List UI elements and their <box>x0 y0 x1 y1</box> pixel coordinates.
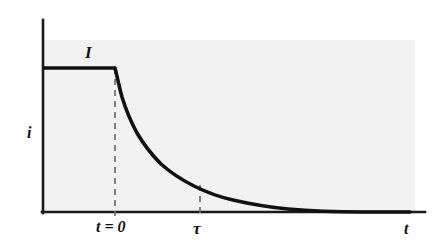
plot-panel-background <box>42 40 415 213</box>
y-axis-label: i <box>27 125 31 141</box>
figure-container: i t I t = 0 τ <box>0 0 440 248</box>
x-axis-label: t <box>404 221 408 237</box>
plateau-current-label: I <box>85 44 92 61</box>
t-zero-tick-label: t = 0 <box>96 219 126 235</box>
tau-tick-label: τ <box>193 220 201 237</box>
exponential-decay-chart <box>0 0 440 248</box>
